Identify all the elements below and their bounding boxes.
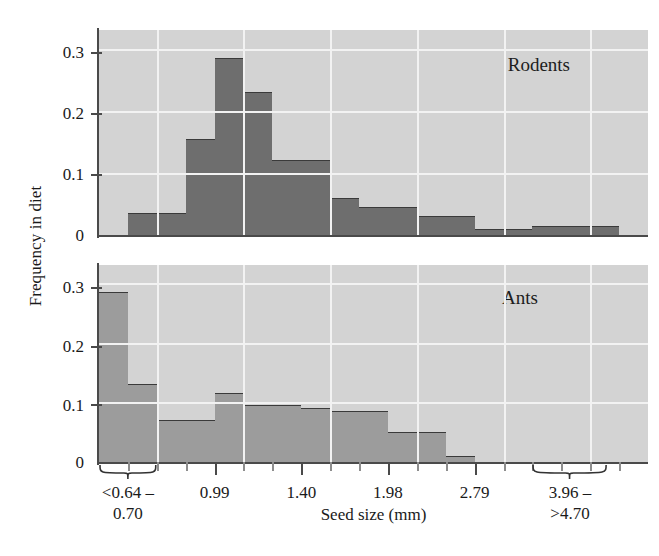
y-tick-mark-ants-1 xyxy=(91,346,102,348)
series-ants-bars xyxy=(99,265,648,462)
x-tick-major-3 xyxy=(475,462,477,475)
y-tick-mark-ants-0 xyxy=(91,287,102,289)
x-tick-minor xyxy=(359,462,361,471)
gridline-h-1 xyxy=(99,111,648,113)
bar xyxy=(215,58,244,235)
bar xyxy=(186,139,215,235)
x-tick-minor xyxy=(186,462,188,471)
gridline-v-1 xyxy=(243,265,245,462)
bar xyxy=(301,408,330,462)
x-axis-line-rodents xyxy=(97,235,648,237)
x-tick-label-2: 1.40 xyxy=(261,482,341,503)
bar xyxy=(532,226,561,235)
figure: Frequency in diet 0.3 0.2 0.1 0 0.3 0.2 … xyxy=(0,0,659,556)
panel-rodents: Rodents xyxy=(99,30,648,235)
x-tick-major-2 xyxy=(388,462,390,475)
x-tick-label-3: 1.98 xyxy=(348,482,428,503)
gridline-v-1 xyxy=(243,30,245,235)
x-tick-label-4: 2.79 xyxy=(435,482,515,503)
bar xyxy=(388,207,417,235)
panel-label-ants: Ants xyxy=(502,287,538,309)
brace-right xyxy=(532,464,607,480)
x-tick-major-1 xyxy=(301,462,303,475)
panel-label-rodents: Rodents xyxy=(508,54,570,76)
bar xyxy=(590,226,619,235)
bar xyxy=(359,411,388,462)
y-tick-mark-ants-2 xyxy=(91,404,102,406)
x-tick-label-1: 0.99 xyxy=(175,482,255,503)
x-tick-minor xyxy=(446,462,448,471)
gridline-h-2 xyxy=(99,283,648,285)
bar xyxy=(99,292,128,462)
bar xyxy=(157,213,186,235)
bar xyxy=(330,411,359,462)
gridline-v-3 xyxy=(417,265,419,462)
gridline-v-0 xyxy=(157,265,159,462)
gridline-v-0 xyxy=(157,30,159,235)
bar xyxy=(417,432,446,462)
y-axis-line-rodents xyxy=(97,28,99,238)
bar xyxy=(128,213,157,235)
x-tick-minor xyxy=(157,462,159,471)
y-tick-label-ants-2: 0.1 xyxy=(24,397,84,414)
bar xyxy=(561,226,590,235)
x-tick-minor xyxy=(417,462,419,471)
bar xyxy=(330,198,359,235)
y-tick-label-group: 0.3 0.2 0.1 0 0.3 0.2 0.1 0 xyxy=(22,0,84,556)
gridline-h-1 xyxy=(99,343,648,345)
bar xyxy=(243,405,272,462)
bar xyxy=(417,216,446,235)
bar xyxy=(186,420,215,462)
gridline-v-4 xyxy=(504,30,506,235)
bar xyxy=(301,160,330,235)
gridline-v-2 xyxy=(330,30,332,235)
x-tick-minor xyxy=(619,462,621,471)
x-tick-major-0 xyxy=(215,462,217,475)
bar xyxy=(388,432,417,462)
y-tick-label-rodents-2: 0.1 xyxy=(24,166,84,183)
gridline-h-0 xyxy=(99,402,648,404)
bar xyxy=(157,420,186,462)
x-tick-minor xyxy=(330,462,332,471)
y-tick-label-ants-3: 0 xyxy=(24,454,84,471)
y-axis-line-ants xyxy=(97,263,99,465)
brace-left xyxy=(99,464,157,480)
y-tick-label-ants-0: 0.3 xyxy=(24,279,84,296)
y-tick-mark-rodents-1 xyxy=(91,113,102,115)
y-tick-mark-rodents-2 xyxy=(91,174,102,176)
bar xyxy=(272,160,301,235)
bar xyxy=(243,92,272,235)
gridline-v-5 xyxy=(590,30,592,235)
gridline-v-3 xyxy=(417,30,419,235)
y-tick-label-rodents-0: 0.3 xyxy=(24,44,84,61)
gridline-v-2 xyxy=(330,265,332,462)
y-tick-mark-rodents-0 xyxy=(91,52,102,54)
gridline-h-2 xyxy=(99,49,648,51)
bar xyxy=(128,384,157,462)
panel-ants: Ants xyxy=(99,265,648,462)
y-tick-label-ants-1: 0.2 xyxy=(24,338,84,355)
x-tick-minor xyxy=(504,462,506,471)
y-tick-label-rodents-1: 0.2 xyxy=(24,105,84,122)
gridline-h-0 xyxy=(99,173,648,175)
bar xyxy=(359,207,388,235)
gridline-v-5 xyxy=(590,265,592,462)
bar xyxy=(446,216,475,235)
x-tick-minor xyxy=(243,462,245,471)
x-axis-label: Seed size (mm) xyxy=(99,505,648,525)
bar xyxy=(272,405,301,462)
gridline-v-4 xyxy=(504,265,506,462)
y-tick-label-rodents-3: 0 xyxy=(24,227,84,244)
x-tick-minor xyxy=(272,462,274,471)
